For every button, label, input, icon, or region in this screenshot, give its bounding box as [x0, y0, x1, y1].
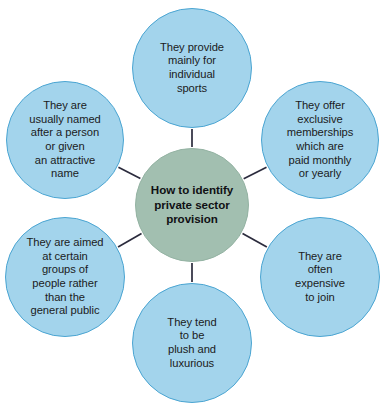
- satellite-circle-certain-groups[interactable]: They are aimed at certain groups of peop…: [5, 217, 125, 337]
- satellite-label-expensive-to-join: They are often expensive to join: [291, 250, 349, 304]
- hub-label: How to identify private sector provision: [147, 183, 237, 227]
- satellite-circle-plush-and-luxurious[interactable]: They tend to be plush and luxurious: [132, 283, 252, 403]
- hub-circle[interactable]: How to identify private sector provision: [135, 148, 249, 262]
- satellite-label-certain-groups: They are aimed at certain groups of peop…: [22, 236, 107, 317]
- satellite-circle-named-after-person[interactable]: They are usually named after a person or…: [6, 81, 124, 199]
- satellite-label-exclusive-memberships: They offer exclusive memberships which a…: [283, 99, 358, 180]
- satellite-label-plush-and-luxurious: They tend to be plush and luxurious: [163, 316, 220, 370]
- connector-line-exclusive-memberships: [244, 167, 267, 179]
- connector-line-named-after-person: [118, 167, 140, 178]
- satellite-circle-individual-sports[interactable]: They provide mainly for individual sport…: [132, 8, 252, 128]
- diagram-canvas: They provide mainly for individual sport…: [0, 0, 386, 417]
- satellite-label-named-after-person: They are usually named after a person or…: [25, 99, 105, 180]
- connector-line-certain-groups: [118, 234, 141, 247]
- satellite-label-individual-sports: They provide mainly for individual sport…: [156, 41, 228, 95]
- connector-line-expensive-to-join: [243, 233, 267, 247]
- satellite-circle-expensive-to-join[interactable]: They are often expensive to join: [260, 217, 380, 337]
- satellite-circle-exclusive-memberships[interactable]: They offer exclusive memberships which a…: [261, 81, 379, 199]
